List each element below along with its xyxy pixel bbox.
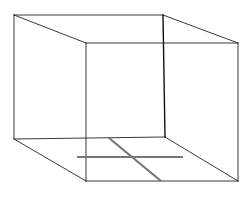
back-right-edge <box>163 15 165 137</box>
top-right-depth-edge <box>163 15 238 43</box>
floor-lines <box>77 138 183 181</box>
cube-diagram <box>0 0 252 197</box>
bottom-right-depth-edge <box>165 137 238 181</box>
back-bottom-edge <box>14 137 165 139</box>
top-left-depth-edge <box>14 15 86 43</box>
bottom-left-depth-edge <box>14 139 86 181</box>
floor-line-diagonal <box>109 138 161 181</box>
